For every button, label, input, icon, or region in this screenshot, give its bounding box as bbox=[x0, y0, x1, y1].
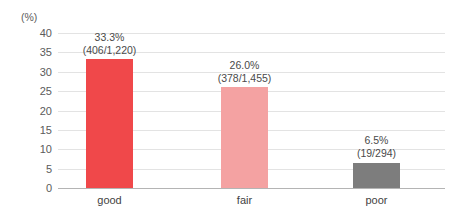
data-label-fair: 26.0% (378/1,455) bbox=[218, 59, 272, 84]
data-label-good-fraction: (406/1,220) bbox=[83, 44, 137, 57]
bar-poor[interactable] bbox=[353, 163, 400, 188]
y-tick-30: 30 bbox=[8, 66, 52, 77]
data-label-poor-pct: 6.5% bbox=[357, 134, 396, 147]
y-axis-unit-label: (%) bbox=[21, 11, 37, 23]
bar-chart: (%) 40 35 30 25 20 15 10 5 0 33.3% (406/… bbox=[0, 0, 461, 220]
category-label-fair: fair bbox=[237, 194, 252, 206]
y-tick-15: 15 bbox=[8, 124, 52, 135]
axis-baseline bbox=[58, 188, 445, 189]
y-axis-tick-labels: 40 35 30 25 20 15 10 5 0 bbox=[0, 33, 52, 188]
bar-good[interactable] bbox=[86, 59, 133, 188]
bar-fair[interactable] bbox=[221, 87, 268, 188]
y-tick-5: 5 bbox=[8, 163, 52, 174]
y-tick-10: 10 bbox=[8, 144, 52, 155]
data-label-fair-pct: 26.0% bbox=[218, 59, 272, 72]
data-label-good-pct: 33.3% bbox=[83, 31, 137, 44]
y-tick-20: 20 bbox=[8, 105, 52, 116]
y-tick-35: 35 bbox=[8, 47, 52, 58]
plot-area bbox=[58, 33, 445, 188]
category-label-good: good bbox=[97, 194, 121, 206]
data-label-poor-fraction: (19/294) bbox=[357, 147, 396, 160]
y-tick-40: 40 bbox=[8, 28, 52, 39]
data-label-poor: 6.5% (19/294) bbox=[357, 134, 396, 159]
data-label-fair-fraction: (378/1,455) bbox=[218, 72, 272, 85]
category-label-poor: poor bbox=[365, 194, 387, 206]
y-tick-25: 25 bbox=[8, 86, 52, 97]
y-tick-0: 0 bbox=[8, 183, 52, 194]
data-label-good: 33.3% (406/1,220) bbox=[83, 31, 137, 56]
